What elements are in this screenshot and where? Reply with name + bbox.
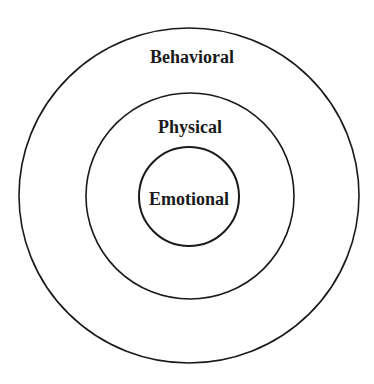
behavioral-label: Behavioral: [150, 47, 234, 67]
concentric-circles-diagram: Behavioral Physical Emotional: [0, 0, 374, 384]
physical-label: Physical: [158, 117, 222, 137]
emotional-label: Emotional: [149, 189, 229, 209]
